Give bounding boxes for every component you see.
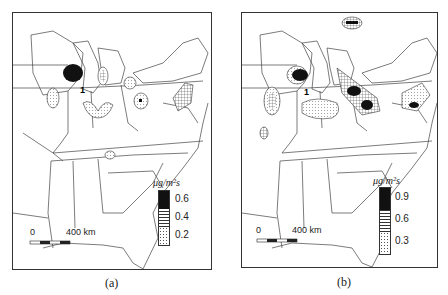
panel-b: 1 0 400 km μg/m²s 0.9 0.6 0.3 (b) (224, 0, 448, 295)
legend-colorbar (158, 190, 170, 246)
legend-tick-mid: 0.6 (395, 213, 409, 224)
legend-unit: μg/m²s (153, 177, 180, 188)
scale-end: 400 km (292, 225, 322, 235)
legend-tick-low: 0.3 (395, 235, 409, 246)
panel-a: 1 0 400 km μg/m²s 0.6 (0, 0, 224, 295)
legend-colorbar (379, 187, 391, 255)
legend-tick-high: 0.9 (395, 191, 409, 202)
site-label: 1 (304, 87, 309, 97)
legend-tick-high: 0.6 (175, 193, 189, 204)
eastern-us-map-b: 1 (242, 13, 437, 267)
scale-start: 0 (256, 225, 261, 235)
caption-b: (b) (337, 275, 351, 290)
emission-blob-high (63, 64, 83, 82)
legend-unit: μg/m²s (373, 175, 400, 186)
scale-start: 0 (30, 227, 35, 237)
scale-end: 400 km (66, 227, 96, 237)
site-label: 1 (80, 85, 85, 95)
map-frame-a: 1 0 400 km μg/m²s 0.6 (12, 12, 212, 270)
legend-tick-mid: 0.4 (175, 211, 189, 222)
caption-a: (a) (105, 276, 118, 291)
emission-blob-high (292, 69, 308, 81)
legend-tick-low: 0.2 (175, 229, 189, 240)
map-frame-b: 1 0 400 km μg/m²s 0.9 0.6 0.3 (241, 12, 438, 268)
